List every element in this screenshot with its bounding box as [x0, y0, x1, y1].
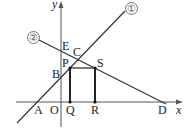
point-E-label: E: [62, 40, 69, 52]
point-Q-label: Q: [66, 104, 75, 116]
line-1-label: ①: [125, 2, 138, 15]
x-axis-label: x: [176, 104, 181, 116]
point-B-label: B: [52, 68, 60, 80]
point-R-label: R: [91, 104, 99, 116]
line-2-label: ②: [27, 31, 40, 44]
point-P-label: P: [62, 57, 69, 69]
point-S-label: S: [97, 57, 104, 69]
point-A-label: A: [34, 104, 43, 116]
y-axis-label: y: [52, 0, 57, 10]
y-axis-arrow-icon: [59, 1, 64, 8]
origin-label: O: [50, 104, 59, 116]
point-C-label: C: [73, 46, 81, 58]
point-D-label: D: [158, 104, 167, 116]
